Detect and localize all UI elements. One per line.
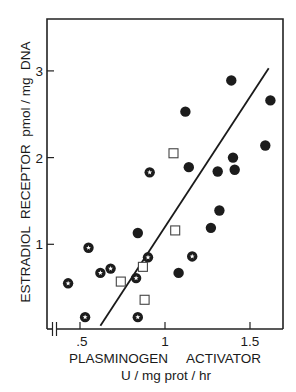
- star-circle-point: [131, 273, 141, 283]
- x-axis-ticks: .511.5: [76, 322, 259, 349]
- open-square-point: [140, 295, 149, 304]
- open-square-point: [169, 149, 178, 158]
- y-tick-label: 2: [35, 151, 43, 166]
- filled-circle-point: [133, 228, 143, 238]
- filled-circle-point: [214, 205, 224, 215]
- star-circle-point: [80, 312, 90, 322]
- filled-circle-point: [260, 140, 270, 150]
- x-axis-units: U / mg prot / hr: [121, 368, 212, 383]
- data-points: [63, 75, 276, 322]
- x-tick-label: 1.5: [241, 334, 260, 349]
- open-square-point: [116, 277, 125, 286]
- star-circle-point: [95, 268, 105, 278]
- star-circle-point: [105, 263, 115, 273]
- open-square-point: [138, 262, 147, 271]
- x-tick-label: 1: [161, 334, 169, 349]
- y-tick-label: 3: [35, 64, 43, 79]
- star-circle-point: [143, 252, 153, 262]
- y-axis-ticks: 123: [35, 64, 54, 252]
- filled-circle-point: [173, 268, 183, 278]
- filled-circle-point: [184, 162, 194, 172]
- filled-circle-point: [206, 223, 216, 233]
- frame-border: [47, 19, 283, 329]
- star-circle-point: [133, 312, 143, 322]
- scatter-chart: .511.5 123 PLASMINOGEN ACTIVATOR U / mg …: [0, 0, 296, 392]
- star-circle-point: [187, 251, 197, 261]
- filled-circle-point: [213, 166, 223, 176]
- x-tick-label: .5: [76, 334, 87, 349]
- filled-circle-point: [265, 95, 275, 105]
- x-axis-label: PLASMINOGEN ACTIVATOR: [69, 351, 261, 366]
- plot-frame: [47, 19, 283, 336]
- y-axis-label: ESTRADIOL RECEPTOR pmol / mg DNA: [18, 41, 33, 302]
- y-tick-label: 1: [35, 237, 43, 252]
- star-circle-point: [145, 167, 155, 177]
- open-square-point: [171, 226, 180, 235]
- filled-circle-point: [228, 152, 238, 162]
- star-circle-point: [83, 243, 93, 253]
- star-circle-point: [63, 278, 73, 288]
- filled-circle-point: [230, 165, 240, 175]
- filled-circle-point: [226, 75, 236, 85]
- filled-circle-point: [180, 106, 190, 116]
